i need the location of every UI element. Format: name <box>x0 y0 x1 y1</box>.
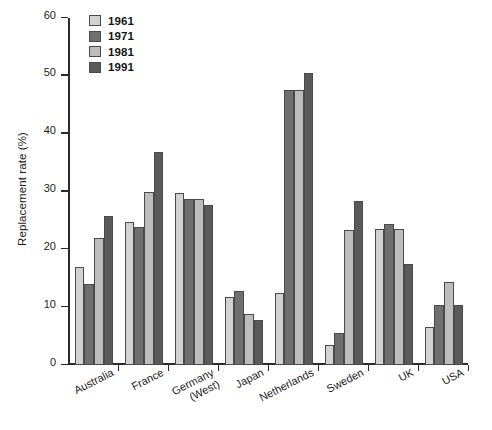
x-axis-labels: AustraliaFranceGermany (West)JapanNether… <box>68 366 468 430</box>
legend-item: 1991 <box>89 60 179 76</box>
bar <box>125 222 135 365</box>
bar <box>244 314 254 365</box>
x-axis-label: Netherlands <box>224 366 315 421</box>
bar <box>194 199 204 365</box>
legend-swatch-icon <box>89 46 101 57</box>
legend-label: 1971 <box>108 30 134 42</box>
y-tick-label: 50 <box>44 66 56 78</box>
y-tick: 0 <box>61 364 68 365</box>
bar <box>234 291 244 365</box>
y-axis-title: Replacement rate (%) <box>16 109 28 269</box>
bar <box>325 345 335 365</box>
bar <box>75 267 85 365</box>
bar <box>175 193 185 365</box>
legend-swatch-icon <box>89 62 101 73</box>
legend-swatch-icon <box>89 15 101 26</box>
bar <box>154 152 164 365</box>
replacement-rate-bar-chart: Replacement rate (%) 0102030405060 Austr… <box>0 0 492 430</box>
y-tick: 50 <box>61 74 68 75</box>
bar <box>425 327 435 365</box>
legend-item: 1971 <box>89 29 179 45</box>
x-axis-label: UK <box>324 366 415 421</box>
bar <box>434 305 444 365</box>
legend: 1961197119811991 <box>89 13 179 75</box>
bar <box>384 224 394 365</box>
bar <box>444 282 454 365</box>
bar <box>275 293 285 365</box>
y-tick: 60 <box>61 17 68 18</box>
y-tick-label: 30 <box>44 182 56 194</box>
y-tick-label: 0 <box>50 356 56 368</box>
legend-label: 1991 <box>108 61 134 73</box>
legend-label: 1981 <box>108 46 134 58</box>
legend-item: 1981 <box>89 44 179 60</box>
x-tick <box>468 365 469 371</box>
legend-label: 1961 <box>108 15 134 27</box>
legend-item: 1961 <box>89 13 179 29</box>
y-tick: 30 <box>61 190 68 191</box>
x-axis-label: USA <box>374 366 465 421</box>
bar <box>404 264 414 365</box>
bar <box>184 199 194 365</box>
y-tick: 10 <box>61 306 68 307</box>
bar <box>225 297 235 365</box>
x-axis-label: Australia <box>24 366 115 421</box>
bar <box>254 320 264 365</box>
x-axis-label: Sweden <box>274 366 365 421</box>
legend-swatch-icon <box>89 31 101 42</box>
bar <box>84 284 94 365</box>
bar <box>144 192 154 365</box>
bar <box>394 229 404 365</box>
bar <box>454 305 464 365</box>
bar <box>375 229 385 365</box>
bar <box>304 73 314 365</box>
bar <box>334 333 344 365</box>
bar <box>354 201 364 365</box>
bar <box>94 238 104 365</box>
y-tick-label: 60 <box>44 9 56 21</box>
y-tick: 20 <box>61 248 68 249</box>
bar <box>104 216 114 365</box>
y-tick: 40 <box>61 132 68 133</box>
bar <box>204 205 214 365</box>
bar <box>344 230 354 365</box>
y-tick-label: 20 <box>44 240 56 252</box>
y-tick-label: 40 <box>44 124 56 136</box>
y-tick-label: 10 <box>44 298 56 310</box>
bar <box>284 90 294 365</box>
bar <box>134 227 144 365</box>
bar <box>294 90 304 365</box>
